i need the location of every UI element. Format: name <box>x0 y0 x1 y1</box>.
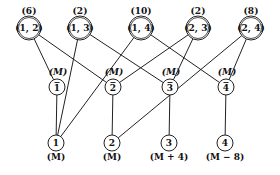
top-node-weight: (2) <box>73 6 88 16</box>
top-node-t14: (1, 4)(10) <box>127 6 154 40</box>
middle-node-m4: 4(M) <box>218 67 236 95</box>
top-node-label: (1, 3) <box>66 23 93 34</box>
edge-t14-b1 <box>61 38 134 137</box>
bottom-node-annotation: (M − 8) <box>206 152 245 162</box>
bottom-node-label: 2 <box>109 138 115 148</box>
top-node-t24: (2, 4)(8) <box>237 6 264 40</box>
nodes: (1, 2)(6)(1, 3)(2)(1, 4)(10)(2, 3)(2)(2,… <box>15 6 264 162</box>
top-node-label: (2, 3) <box>184 23 211 34</box>
bottom-node-annotation: (M + 4) <box>150 152 189 162</box>
top-node-t23: (2, 3)(2) <box>184 6 211 40</box>
top-node-weight: (8) <box>244 6 259 16</box>
top-node-label: (1, 2) <box>15 23 42 34</box>
bipartite-diagram: (1, 2)(6)(1, 3)(2)(1, 4)(10)(2, 3)(2)(2,… <box>0 0 280 175</box>
bottom-node-label: 4 <box>222 138 228 148</box>
middle-node-label: 3 <box>167 83 173 93</box>
middle-node-annotation: (M) <box>105 67 123 77</box>
edge-m3-b3 <box>169 95 170 135</box>
bottom-node-b3: 3(M + 4) <box>150 135 189 162</box>
bottom-node-annotation: (M) <box>47 152 65 162</box>
bottom-node-b2: 2(M) <box>103 135 121 162</box>
bottom-node-annotation: (M) <box>103 152 121 162</box>
top-node-label: (2, 4) <box>237 23 264 34</box>
bottom-node-label: 1 <box>53 138 59 148</box>
top-node-label: (1, 4) <box>127 23 154 34</box>
middle-node-m2: 2(M) <box>105 67 123 95</box>
top-node-weight: (2) <box>191 6 206 16</box>
edge-m1-b1 <box>56 95 57 135</box>
middle-node-annotation: (M) <box>218 67 236 77</box>
middle-node-annotation: (M) <box>49 67 67 77</box>
bottom-node-b4: 4(M − 8) <box>206 135 245 162</box>
top-node-t12: (1, 2)(6) <box>15 6 42 40</box>
bottom-node-label: 3 <box>166 138 172 148</box>
edge-t13-m3 <box>90 35 163 83</box>
middle-node-annotation: (M) <box>162 67 180 77</box>
top-node-weight: (10) <box>130 6 151 16</box>
middle-node-label: 2 <box>110 83 116 93</box>
bottom-node-b1: 1(M) <box>47 135 65 162</box>
edge-m2-b2 <box>112 95 113 135</box>
edges <box>34 35 246 138</box>
top-node-weight: (6) <box>22 6 37 16</box>
middle-node-m1: 1(M) <box>49 67 67 95</box>
edge-m4-b4 <box>225 95 226 135</box>
middle-node-label: 1 <box>54 83 60 93</box>
middle-node-m3: 3(M) <box>162 67 180 95</box>
top-node-t13: (1, 3)(2) <box>66 6 93 40</box>
middle-node-label: 4 <box>223 83 229 93</box>
